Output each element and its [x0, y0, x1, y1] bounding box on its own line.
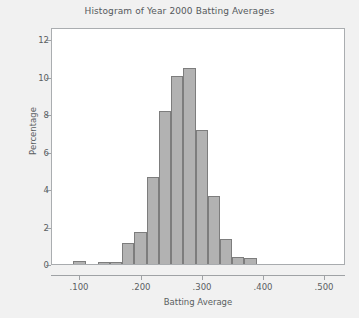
y-axis-tick-label: 0	[27, 260, 49, 270]
x-axis-tick	[141, 275, 142, 280]
x-axis-tick-label: .300	[187, 282, 217, 292]
y-axis-label: Percentage	[28, 91, 38, 171]
y-axis-tick-label: 2	[27, 223, 49, 233]
histogram-bar	[183, 68, 195, 265]
plot-area	[52, 29, 344, 265]
histogram-bar	[220, 239, 232, 265]
y-axis-tick-label: 12	[27, 35, 49, 45]
x-axis-tick-label: .200	[126, 282, 156, 292]
y-axis-tick-label: 4	[27, 185, 49, 195]
histogram-bar	[159, 111, 171, 265]
x-axis-tick-label: .400	[248, 282, 278, 292]
histogram-bar	[147, 177, 159, 265]
x-axis-tick	[324, 275, 325, 280]
histogram-bar	[122, 243, 134, 265]
y-axis-tick-label: 10	[27, 73, 49, 83]
histogram-bar	[196, 130, 208, 265]
x-axis-label: Batting Average	[51, 297, 345, 307]
histogram-bar	[171, 76, 183, 265]
x-axis-line	[51, 275, 345, 276]
x-axis-tick	[79, 275, 80, 280]
x-axis-tick-label: .100	[64, 282, 94, 292]
zero-baseline	[52, 264, 344, 265]
histogram-bar	[134, 232, 146, 265]
x-axis-tick	[263, 275, 264, 280]
histogram-chart: Histogram of Year 2000 Batting Averages …	[0, 0, 359, 318]
chart-title: Histogram of Year 2000 Batting Averages	[0, 6, 359, 16]
x-axis-tick	[202, 275, 203, 280]
x-axis-tick-label: .500	[309, 282, 339, 292]
histogram-bar	[208, 196, 220, 265]
